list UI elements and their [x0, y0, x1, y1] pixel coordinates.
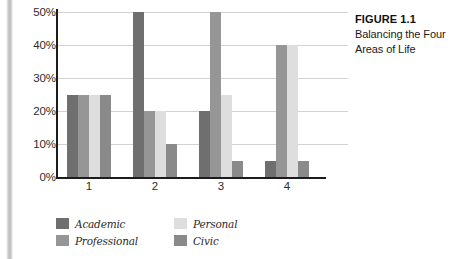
- plot-area: [56, 12, 320, 177]
- bar: [199, 111, 210, 177]
- bar-group: [133, 12, 177, 177]
- legend-label: Academic: [75, 218, 125, 230]
- legend-item: Professional: [56, 233, 138, 248]
- legend-swatch: [56, 218, 69, 229]
- x-axis-tick-label: 2: [152, 180, 158, 192]
- legend-item: Personal: [174, 216, 237, 231]
- figure-caption-text: Balancing the Four Areas of Life: [355, 27, 459, 57]
- bar-group: [67, 12, 111, 177]
- y-axis-tick-label: 20%: [33, 105, 56, 117]
- legend-label: Personal: [193, 218, 237, 230]
- y-axis-tick-label: 40%: [33, 39, 56, 51]
- bar: [298, 161, 309, 178]
- bar-group: [199, 12, 243, 177]
- bar: [210, 12, 221, 177]
- legend-item: Academic: [56, 216, 125, 231]
- figure-caption-title: FIGURE 1.1: [355, 12, 459, 27]
- y-axis-tick-label: 10%: [33, 138, 56, 150]
- x-axis-tick-label: 1: [86, 180, 92, 192]
- bar-group: [265, 12, 309, 177]
- legend-label: Professional: [75, 235, 138, 247]
- legend-swatch: [56, 235, 69, 246]
- bar: [232, 161, 243, 178]
- x-axis-line: [56, 177, 326, 179]
- legend-label: Civic: [193, 235, 219, 247]
- legend-swatch: [174, 235, 187, 246]
- bar: [78, 95, 89, 178]
- bar: [265, 161, 276, 178]
- legend-swatch: [174, 218, 187, 229]
- bar: [287, 45, 298, 177]
- y-axis-tick-label: 50%: [33, 6, 56, 18]
- bar: [155, 111, 166, 177]
- bar: [133, 12, 144, 177]
- bar: [166, 144, 177, 177]
- y-axis-tick-label: 30%: [33, 72, 56, 84]
- figure-caption: FIGURE 1.1 Balancing the Four Areas of L…: [355, 12, 459, 57]
- bar: [144, 111, 155, 177]
- legend-item: Civic: [174, 233, 219, 248]
- x-axis-tick-label: 3: [218, 180, 224, 192]
- y-axis-tick-label: 0%: [40, 171, 56, 183]
- bar-chart: 0%10%20%30%40%50% 1234: [18, 12, 348, 197]
- bar: [221, 95, 232, 178]
- x-axis-tick-labels: 1234: [56, 180, 320, 198]
- y-axis-tick-labels: 0%10%20%30%40%50%: [18, 12, 56, 177]
- figure-container: 0%10%20%30%40%50% 1234 AcademicPersonalP…: [0, 0, 464, 259]
- bar: [100, 95, 111, 178]
- chart-legend: AcademicPersonalProfessionalCivic: [56, 216, 286, 252]
- x-axis-tick-label: 4: [284, 180, 290, 192]
- bars-layer: [56, 12, 320, 177]
- bar: [89, 95, 100, 178]
- bar: [67, 95, 78, 178]
- bar: [276, 45, 287, 177]
